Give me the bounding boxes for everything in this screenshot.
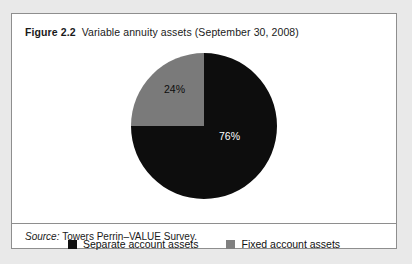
figure-number: Figure 2.2	[25, 26, 76, 38]
figure-container: Figure 2.2 Variable annuity assets (Sept…	[11, 13, 397, 249]
pie-graphic: 24% 76%	[131, 53, 277, 199]
source-divider	[12, 223, 396, 224]
source-note: Source: Towers Perrin–VALUE Survey.	[25, 231, 197, 242]
pie-chart: 24% 76% Separate account assets Fixed ac…	[12, 40, 396, 200]
source-label: Source:	[25, 231, 59, 242]
legend-label-fixed-account: Fixed account assets	[241, 238, 340, 250]
pie-label-separate-account: 76%	[219, 130, 240, 142]
source-text: Towers Perrin–VALUE Survey.	[62, 231, 197, 242]
legend-swatch-fixed-account	[226, 240, 235, 249]
pie-label-fixed-account: 24%	[164, 83, 185, 95]
figure-title: Figure 2.2 Variable annuity assets (Sept…	[25, 26, 299, 38]
legend-item-fixed-account: Fixed account assets	[226, 238, 340, 250]
figure-caption-text: Variable annuity assets (September 30, 2…	[82, 26, 299, 38]
pie-svg	[131, 53, 277, 199]
